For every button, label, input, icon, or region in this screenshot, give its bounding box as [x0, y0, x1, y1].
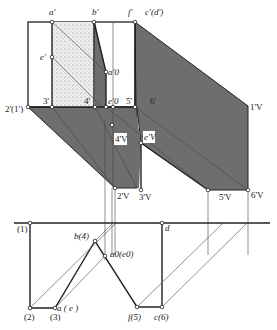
- label-5v: 5'V: [219, 192, 232, 202]
- label-c-6: c(6): [154, 312, 169, 322]
- label-b-4: b(4): [74, 231, 89, 241]
- label-2-1-prime: 2'(1'): [5, 104, 23, 114]
- label-5-prime: 5': [126, 96, 133, 106]
- label-3: (3): [50, 312, 61, 322]
- label-3v: 3'V: [139, 192, 152, 202]
- label-6v: 6'V: [251, 190, 264, 200]
- label-a0-e0: a0(e0): [110, 249, 134, 259]
- shadow-construction-diagram: a' b' f' c'(d') e' a'0 2'(1') 3' 4' e'0 …: [0, 0, 277, 330]
- label-b-prime: b': [92, 7, 100, 17]
- label-ev: e'V: [144, 132, 157, 142]
- label-a0-prime: a'0: [108, 67, 119, 77]
- label-cd-prime: c'(d'): [145, 7, 163, 17]
- label-a-e: a ( e ): [57, 303, 78, 313]
- label-1: (1): [17, 224, 28, 234]
- top-view: (1) (2) (3) a ( e ) b(4) a0(e0) d f(5) c…: [14, 221, 270, 322]
- label-d: d: [165, 223, 170, 233]
- label-2: (2): [24, 312, 35, 322]
- label-f-5: f(5): [128, 312, 141, 322]
- label-2v: 2'V: [117, 191, 130, 201]
- label-a-prime: a': [49, 7, 57, 17]
- stippled-face: [52, 22, 94, 107]
- label-6-prime: 6': [150, 96, 157, 106]
- label-4v: 4'V: [115, 134, 128, 144]
- label-1v: 1'V: [250, 102, 263, 112]
- label-4-prime: 4': [84, 96, 91, 106]
- label-f-prime: f': [128, 7, 134, 17]
- label-e0-prime: e'0: [108, 96, 119, 106]
- front-view: a' b' f' c'(d') e' a'0 2'(1') 3' 4' e'0 …: [5, 7, 264, 260]
- label-3-prime: 3': [43, 96, 50, 106]
